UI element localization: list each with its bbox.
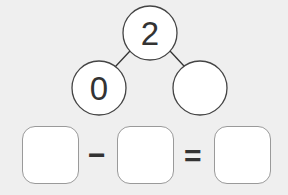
connector-left <box>115 51 130 67</box>
equals-sign: = <box>184 141 202 171</box>
whole-value: 2 <box>141 15 159 52</box>
equation-term1-box[interactable] <box>22 126 79 184</box>
left-part-value: 0 <box>90 70 108 107</box>
minus-sign: − <box>88 140 106 170</box>
connector-right <box>170 51 184 66</box>
right-part-circle[interactable] <box>173 61 227 115</box>
equation-term2-box[interactable] <box>117 126 174 184</box>
equation-result-box[interactable] <box>214 126 271 184</box>
